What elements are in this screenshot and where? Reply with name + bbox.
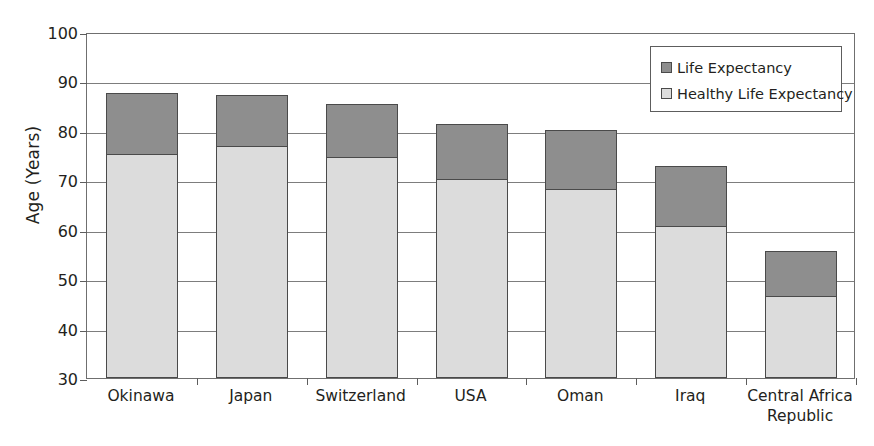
- chart-legend: Life ExpectancyHealthy Life Expectancy: [650, 46, 842, 112]
- y-axis-tick-label: 70: [36, 172, 78, 191]
- bar-segment-healthy-life-expectancy[interactable]: [765, 296, 837, 378]
- y-axis-tick-label: 50: [36, 271, 78, 290]
- bar-segment-healthy-life-expectancy[interactable]: [545, 189, 617, 378]
- bar-group[interactable]: [106, 32, 178, 378]
- x-axis-tick-label-line: Oman: [525, 386, 635, 406]
- y-axis-tick-mark: [80, 133, 87, 134]
- bar-segment-healthy-life-expectancy[interactable]: [436, 179, 508, 378]
- bar-segment-life-expectancy[interactable]: [765, 251, 837, 297]
- bar-segment-life-expectancy[interactable]: [436, 124, 508, 180]
- y-axis-tick-label: 100: [36, 24, 78, 43]
- x-axis-tick-label-line: Central Africa: [745, 386, 855, 406]
- bar-segment-healthy-life-expectancy[interactable]: [216, 146, 288, 378]
- x-axis-tick-mark: [856, 378, 857, 385]
- x-axis-tick-labels: OkinawaJapanSwitzerlandUSAOmanIraqCentra…: [86, 386, 855, 444]
- bar-segment-healthy-life-expectancy[interactable]: [655, 226, 727, 378]
- x-axis-tick-mark: [417, 378, 418, 385]
- y-axis-tick-mark: [80, 34, 87, 35]
- x-axis-tick-label: USA: [416, 386, 526, 406]
- x-axis-tick-mark: [197, 378, 198, 385]
- bar-group[interactable]: [436, 32, 508, 378]
- y-axis-tick-label: 80: [36, 122, 78, 141]
- x-axis-tick-label: Iraq: [635, 386, 745, 406]
- y-axis-tick-labels: 10090807060504030: [20, 0, 78, 446]
- y-axis-tick-label: 30: [36, 370, 78, 389]
- y-axis-tick-mark: [80, 380, 87, 381]
- x-axis-tick-mark: [526, 378, 527, 385]
- bar-segment-healthy-life-expectancy[interactable]: [326, 157, 398, 378]
- y-axis-tick-label: 90: [36, 73, 78, 92]
- x-axis-tick-label: Okinawa: [86, 386, 196, 406]
- y-axis-tick-mark: [80, 331, 87, 332]
- x-axis-tick-mark: [746, 378, 747, 385]
- legend-item-label: Life Expectancy: [677, 60, 792, 76]
- y-axis-tick-mark: [80, 182, 87, 183]
- bar-segment-healthy-life-expectancy[interactable]: [106, 154, 178, 378]
- y-axis-tick-label: 40: [36, 320, 78, 339]
- x-axis-tick-mark: [636, 378, 637, 385]
- x-axis-tick-label: Japan: [196, 386, 306, 406]
- y-axis-tick-mark: [80, 281, 87, 282]
- bar-segment-life-expectancy[interactable]: [655, 166, 727, 228]
- x-axis-tick-label-line: USA: [416, 386, 526, 406]
- x-axis-tick-label-line: Iraq: [635, 386, 745, 406]
- bar-segment-life-expectancy[interactable]: [326, 104, 398, 158]
- legend-item[interactable]: Life Expectancy: [661, 56, 841, 79]
- legend-item-label: Healthy Life Expectancy: [677, 86, 853, 102]
- x-axis-tick-label: Switzerland: [306, 386, 416, 406]
- legend-item[interactable]: Healthy Life Expectancy: [661, 82, 841, 105]
- y-axis-tick-label: 60: [36, 221, 78, 240]
- x-axis-tick-label-line: Okinawa: [86, 386, 196, 406]
- y-axis-tick-mark: [80, 83, 87, 84]
- x-axis-tick-label-line: Japan: [196, 386, 306, 406]
- x-axis-tick-label-line: Republic: [745, 406, 855, 426]
- bar-group[interactable]: [326, 32, 398, 378]
- x-axis-tick-label: Central AfricaRepublic: [745, 386, 855, 426]
- bar-segment-life-expectancy[interactable]: [545, 130, 617, 191]
- bar-segment-life-expectancy[interactable]: [106, 93, 178, 156]
- y-axis-tick-mark: [80, 232, 87, 233]
- legend-swatch-icon: [661, 88, 672, 99]
- x-axis-tick-label: Oman: [525, 386, 635, 406]
- bar-group[interactable]: [545, 32, 617, 378]
- x-axis-tick-label-line: Switzerland: [306, 386, 416, 406]
- bar-group[interactable]: [216, 32, 288, 378]
- legend-swatch-icon: [661, 62, 672, 73]
- bar-segment-life-expectancy[interactable]: [216, 95, 288, 148]
- life-expectancy-chart: Age (Years) 10090807060504030 OkinawaJap…: [0, 0, 874, 446]
- x-axis-tick-mark: [307, 378, 308, 385]
